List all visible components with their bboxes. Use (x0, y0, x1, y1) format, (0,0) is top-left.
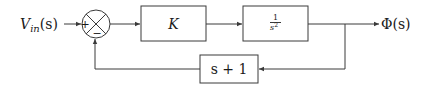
output-label: Φ(s) (381, 16, 411, 32)
plant-block: 1 s2 (243, 6, 308, 41)
block-diagram: Vin(s) + − K 1 s2 Φ(s) s + 1 (0, 0, 423, 87)
summing-junction: + − (80, 10, 110, 40)
feedback-label: s + 1 (211, 61, 248, 77)
feedback-return-wire (95, 39, 200, 69)
gain-block: K (141, 6, 206, 41)
gain-label: K (167, 16, 180, 32)
plus-sign: + (80, 18, 89, 31)
input-label: Vin(s) (20, 16, 58, 34)
feedback-block: s + 1 (200, 55, 258, 83)
minus-sign: − (92, 27, 101, 40)
